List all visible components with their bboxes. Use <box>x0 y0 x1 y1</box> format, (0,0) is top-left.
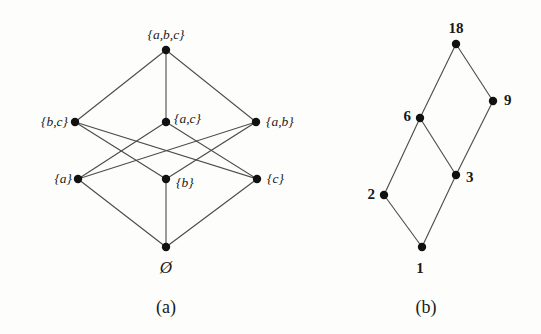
diagram-b-label-n2: 2 <box>368 187 376 202</box>
diagram-b: 1896321 <box>0 0 541 334</box>
diagram-b-label-n9: 9 <box>504 93 512 108</box>
caption-b: (b) <box>416 297 437 318</box>
diagram-b-label-n1: 1 <box>416 261 424 276</box>
diagram-b-label-n18: 18 <box>449 21 464 36</box>
caption-a: (a) <box>156 297 176 318</box>
diagram-b-label-n6: 6 <box>404 109 412 124</box>
figure-canvas: {a,b,c}{b,c}{a,c}{a,b}{a}{b}{c}Ø 1896321… <box>0 0 541 334</box>
diagram-b-label-n3: 3 <box>466 170 474 185</box>
